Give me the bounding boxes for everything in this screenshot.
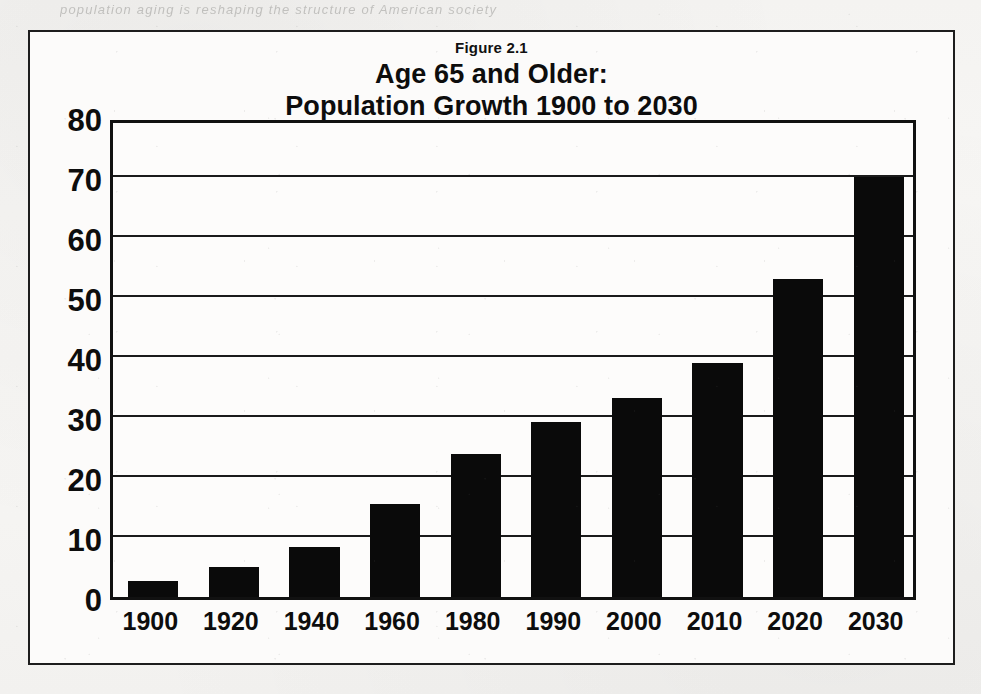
y-tick-label: 20 bbox=[68, 465, 102, 496]
chart-title-line-2: Population Growth 1900 to 2030 bbox=[30, 90, 953, 122]
x-tick-label: 2010 bbox=[674, 608, 755, 636]
bar bbox=[451, 454, 501, 597]
y-tick-label: 50 bbox=[68, 285, 102, 316]
chart-title-line-1: Age 65 and Older: bbox=[30, 58, 953, 90]
y-tick-label: 80 bbox=[68, 105, 102, 136]
x-tick-label: 1900 bbox=[110, 608, 191, 636]
figure-number-label: Figure 2.1 bbox=[30, 38, 953, 58]
figure-frame: Figure 2.1 Age 65 and Older: Population … bbox=[28, 30, 955, 665]
x-tick-label: 1980 bbox=[432, 608, 513, 636]
x-tick-label: 1990 bbox=[513, 608, 594, 636]
x-tick-label: 1960 bbox=[352, 608, 433, 636]
page-bleedthrough-text: population aging is reshaping the struct… bbox=[60, 2, 760, 18]
plot-area bbox=[110, 120, 916, 600]
bar bbox=[370, 504, 420, 597]
bar-series bbox=[113, 123, 913, 597]
bar bbox=[692, 363, 742, 597]
x-tick-label: 2000 bbox=[594, 608, 675, 636]
y-tick-label: 60 bbox=[68, 225, 102, 256]
bar bbox=[289, 547, 339, 597]
y-tick-label: 70 bbox=[68, 165, 102, 196]
bar bbox=[128, 581, 178, 597]
bar bbox=[531, 422, 581, 597]
bar bbox=[773, 279, 823, 597]
x-tick-label: 1920 bbox=[191, 608, 272, 636]
bar bbox=[612, 398, 662, 597]
y-tick-label: 10 bbox=[68, 525, 102, 556]
x-tick-label: 1940 bbox=[271, 608, 352, 636]
y-tick-label: 0 bbox=[85, 585, 102, 616]
x-axis-tick-labels: 1900192019401960198019902000201020202030 bbox=[110, 604, 916, 650]
y-tick-label: 30 bbox=[68, 405, 102, 436]
y-axis-tick-labels: 01020304050607080 bbox=[30, 120, 108, 600]
x-tick-label: 2030 bbox=[835, 608, 916, 636]
plot-wrapper: 01020304050607080 1900192019401960198019… bbox=[30, 120, 957, 660]
x-tick-label: 2020 bbox=[755, 608, 836, 636]
bar bbox=[854, 177, 904, 597]
y-tick-label: 40 bbox=[68, 345, 102, 376]
bar bbox=[209, 567, 259, 597]
figure-title-block: Figure 2.1 Age 65 and Older: Population … bbox=[30, 38, 953, 122]
